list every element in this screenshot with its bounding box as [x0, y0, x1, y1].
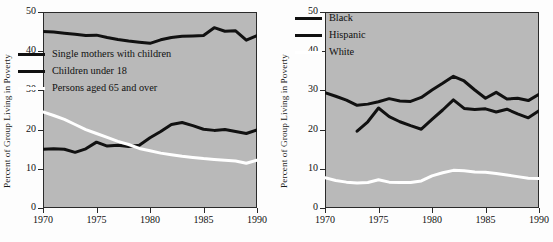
legend-item-white: White — [295, 44, 366, 61]
right-chart-xtick-mark — [486, 208, 487, 213]
left-chart-xtick-mark — [150, 208, 151, 213]
legend-swatch-single-mothers — [18, 53, 45, 56]
right-chart-xtick-mark — [379, 208, 380, 213]
left-chart-ytick-mark — [38, 169, 43, 170]
right-chart-ytick-mark — [320, 169, 325, 170]
right-chart-legend: Black Hispanic White — [295, 10, 366, 61]
left-chart-xtick-label: 1975 — [87, 214, 107, 225]
right-chart-series-2 — [325, 170, 539, 183]
left-chart-ytick-mark — [38, 130, 43, 131]
left-chart-legend: Single mothers with children Children un… — [18, 46, 171, 97]
left-chart-xtick-label: 1990 — [247, 214, 267, 225]
right-chart-xtick-label: 1985 — [476, 214, 496, 225]
right-chart-xtick-mark — [325, 208, 326, 213]
legend-label-black: Black — [329, 13, 353, 23]
left-chart-lines — [43, 12, 257, 208]
right-chart-xtick-label: 1980 — [422, 214, 442, 225]
left-chart-panel: Percent of Group Living in Poverty 01020… — [0, 0, 276, 242]
legend-item-persons-65-and-over: Persons aged 65 and over — [18, 80, 171, 97]
legend-item-black: Black — [295, 10, 366, 27]
right-chart-xtick-label: 1990 — [529, 214, 549, 225]
legend-swatch-hispanic — [295, 34, 322, 37]
legend-swatch-white — [295, 51, 322, 54]
right-chart-xtick-mark — [539, 208, 540, 213]
legend-item-hispanic: Hispanic — [295, 27, 366, 44]
right-chart-xtick-mark — [432, 208, 433, 213]
left-plot-area: 01020304050 19701975198019851990 — [43, 12, 257, 208]
right-chart-series-0 — [325, 76, 539, 105]
legend-item-single-mothers: Single mothers with children — [18, 46, 171, 63]
legend-label-persons-65-and-over: Persons aged 65 and over — [52, 83, 157, 93]
right-chart-panel: Percent of Group Living in Poverty 01020… — [277, 0, 553, 242]
left-chart-xtick-label: 1985 — [194, 214, 214, 225]
left-y-axis-label: Percent of Group Living in Poverty — [2, 0, 16, 242]
right-chart-series-1 — [357, 100, 539, 131]
left-chart-xtick-mark — [43, 208, 44, 213]
legend-label-white: White — [329, 47, 354, 57]
right-chart-xtick-label: 1975 — [369, 214, 389, 225]
right-chart-ytick-mark — [320, 90, 325, 91]
poverty-charts-figure: Percent of Group Living in Poverty 01020… — [0, 0, 553, 242]
left-chart-xtick-mark — [257, 208, 258, 213]
legend-item-children-under-18: Children under 18 — [18, 63, 171, 80]
left-chart-xtick-mark — [204, 208, 205, 213]
right-chart-ytick-mark — [320, 130, 325, 131]
legend-label-hispanic: Hispanic — [329, 30, 366, 40]
left-chart-xtick-label: 1980 — [140, 214, 160, 225]
right-chart-xtick-label: 1970 — [315, 214, 335, 225]
left-chart-xtick-label: 1970 — [33, 214, 53, 225]
left-chart-series-1 — [43, 123, 257, 153]
left-chart-series-0 — [43, 28, 257, 44]
legend-swatch-persons-65-and-over — [18, 87, 45, 90]
left-chart-ytick-mark — [38, 12, 43, 13]
legend-label-children-under-18: Children under 18 — [52, 66, 127, 76]
legend-swatch-children-under-18 — [18, 70, 45, 73]
legend-label-single-mothers: Single mothers with children — [52, 49, 171, 59]
right-y-axis-label: Percent of Group Living in Poverty — [279, 0, 293, 242]
legend-swatch-black — [295, 17, 322, 20]
left-chart-xtick-mark — [97, 208, 98, 213]
